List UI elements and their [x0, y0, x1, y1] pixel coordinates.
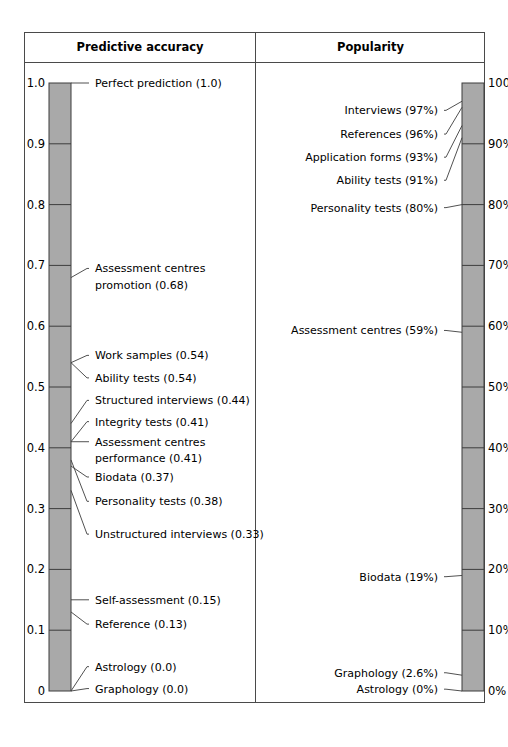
- data-point-label: Ability tests (0.54): [95, 372, 196, 385]
- popularity-scale: 0%10%20%30%40%50%60%70%80%90%100%Intervi…: [256, 63, 485, 704]
- axis-tick-label: 0.9: [27, 137, 45, 151]
- data-point-label: Astrology (0%): [357, 683, 438, 696]
- leader-line: [71, 268, 89, 277]
- data-point-label: performance (0.41): [95, 452, 202, 465]
- leader-line: [71, 422, 89, 442]
- leader-line: [444, 101, 462, 110]
- axis-tick-label: 80%: [488, 198, 508, 212]
- axis-tick-label: 90%: [488, 137, 508, 151]
- data-point-label: Structured interviews (0.44): [95, 394, 250, 407]
- axis-tick-label: 0.6: [27, 319, 45, 333]
- axis-tick-label: 10%: [488, 623, 508, 637]
- axis-tick-label: 0: [38, 684, 45, 698]
- data-point-label: Astrology (0.0): [95, 661, 176, 674]
- panel-predictive-accuracy: 00.10.20.30.40.50.60.70.80.91.0Perfect p…: [25, 63, 255, 704]
- data-point-label: Assessment centres: [95, 436, 206, 449]
- leader-line: [444, 575, 462, 576]
- leader-line: [71, 363, 89, 378]
- leader-line: [444, 330, 462, 332]
- leader-line: [444, 126, 462, 158]
- data-point-label: Integrity tests (0.41): [95, 416, 209, 429]
- data-point-label: Graphology (0.0): [95, 683, 188, 696]
- leader-line: [444, 689, 462, 691]
- axis-tick-label: 0.3: [27, 502, 45, 516]
- leader-line: [444, 205, 462, 208]
- axis-tick-label: 0.7: [27, 258, 45, 272]
- data-point-label: Application forms (93%): [305, 151, 438, 164]
- leader-line: [71, 355, 89, 362]
- leader-line: [71, 400, 89, 423]
- data-point-label: Biodata (19%): [359, 571, 438, 584]
- data-point-label: Self-assessment (0.15): [95, 594, 221, 607]
- data-point-label: Ability tests (91%): [337, 174, 438, 187]
- axis-tick-label: 50%: [488, 380, 508, 394]
- data-point-label: Perfect prediction (1.0): [95, 77, 222, 90]
- column-header-predictive-accuracy: Predictive accuracy: [25, 33, 255, 62]
- axis-tick-label: 60%: [488, 319, 508, 333]
- leader-line: [71, 460, 89, 501]
- data-point-label: Graphology (2.6%): [334, 667, 438, 680]
- panel-popularity: 0%10%20%30%40%50%60%70%80%90%100%Intervi…: [256, 63, 485, 704]
- data-point-label: Work samples (0.54): [95, 349, 209, 362]
- data-point-label: Assessment centres: [95, 262, 206, 275]
- leader-line: [71, 612, 89, 624]
- axis-tick-label: 0.5: [27, 380, 45, 394]
- data-point-label: Assessment centres (59%): [291, 324, 438, 337]
- axis-tick-label: 100%: [488, 76, 508, 90]
- data-point-label: References (96%): [340, 128, 438, 141]
- figure-frame: Predictive accuracy Popularity 00.10.20.…: [24, 32, 485, 703]
- axis-tick-label: 0.2: [27, 562, 45, 576]
- data-point-label: Personality tests (80%): [310, 202, 438, 215]
- axis-tick-label: 1.0: [27, 76, 45, 90]
- axis-tick-label: 30%: [488, 502, 508, 516]
- axis-tick-label: 40%: [488, 441, 508, 455]
- predictive-accuracy-scale: 00.10.20.30.40.50.60.70.80.91.0Perfect p…: [25, 63, 255, 704]
- leader-line: [71, 490, 89, 534]
- axis-tick-label: 0.8: [27, 198, 45, 212]
- data-point-label: promotion (0.68): [95, 279, 188, 292]
- axis-tick-label: 0.4: [27, 441, 45, 455]
- leader-line: [444, 673, 462, 675]
- data-point-label: Biodata (0.37): [95, 471, 174, 484]
- data-point-label: Personality tests (0.38): [95, 495, 223, 508]
- data-point-label: Unstructured interviews (0.33): [95, 528, 264, 541]
- column-header-popularity: Popularity: [256, 33, 485, 62]
- axis-tick-label: 20%: [488, 562, 508, 576]
- leader-line: [71, 667, 89, 691]
- data-point-label: Reference (0.13): [95, 618, 187, 631]
- leader-line: [71, 689, 89, 691]
- axis-tick-label: 70%: [488, 258, 508, 272]
- axis-tick-label: 0.1: [27, 623, 45, 637]
- data-point-label: Interviews (97%): [345, 104, 438, 117]
- axis-tick-label: 0%: [488, 684, 506, 698]
